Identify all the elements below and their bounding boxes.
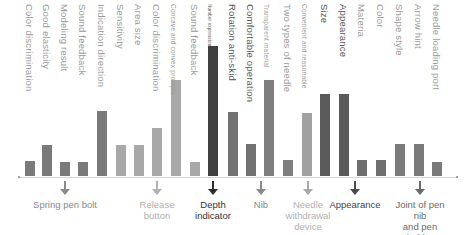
- down-arrow-icon: [256, 181, 266, 195]
- bar-label: Appearance: [338, 4, 348, 57]
- bar: [339, 94, 349, 176]
- bar-label: Needle loading port: [431, 4, 441, 90]
- group-callout-label: Nib: [254, 199, 268, 210]
- bar-label: Concave and convex prompts: [170, 4, 177, 95]
- bar: [414, 144, 424, 176]
- bar-label: Good elasticity: [41, 4, 51, 69]
- bar-label: Sound feedback: [77, 4, 87, 75]
- bar: [78, 162, 88, 176]
- bar: [60, 162, 70, 176]
- bar-label: Convenient and reasonable: [301, 4, 308, 89]
- group-callout-label: Appearance: [329, 199, 380, 210]
- bar: [42, 145, 52, 176]
- bar-label: Size: [319, 4, 329, 23]
- x-axis-baseline: [18, 177, 458, 178]
- bar-label: Two types of needle: [282, 4, 292, 92]
- bar: [357, 160, 367, 176]
- group-callout-label: Needle withdrawal device: [286, 199, 331, 232]
- down-arrow-icon: [152, 181, 162, 195]
- group-callout-label: Joint of pen nib and pen holder: [394, 199, 446, 235]
- bar: [376, 160, 386, 176]
- bar-label: Indication direction: [96, 4, 106, 87]
- feature-bar-chart: Color discriminationGood elasticityModel…: [0, 0, 472, 235]
- bar: [134, 145, 144, 176]
- down-arrow-icon: [350, 181, 360, 195]
- bar-label: Color discrimination: [151, 4, 161, 91]
- group-callout-label: Depth indicator: [195, 199, 231, 221]
- axis-start-dot: [18, 176, 20, 178]
- bar-label: Modeling result: [59, 4, 69, 71]
- bar: [302, 113, 312, 176]
- bar: [320, 94, 330, 176]
- group-callout-label: Spring pen bolt: [33, 199, 97, 210]
- bar: [190, 162, 200, 176]
- axis-end-dot: [456, 176, 458, 178]
- bar-label: Number expression: [207, 4, 212, 46]
- bar-label: Materia: [356, 4, 366, 37]
- bar: [264, 80, 274, 176]
- bar-label: Arrow hint: [413, 4, 423, 49]
- bar-label: Area size: [133, 4, 143, 45]
- bar: [116, 145, 126, 176]
- bar-label: Shape style: [394, 4, 404, 56]
- down-arrow-icon: [208, 181, 218, 195]
- bar-label: Rotation anti-skid: [227, 4, 237, 81]
- bar: [283, 160, 293, 176]
- bar-label: Color: [375, 4, 385, 28]
- down-arrow-icon: [60, 181, 70, 195]
- bar: [395, 144, 405, 176]
- bar: [25, 161, 35, 176]
- bar: [432, 162, 442, 176]
- bar: [228, 112, 238, 176]
- bar: [208, 46, 218, 176]
- down-arrow-icon: [303, 181, 313, 195]
- bar-label: Comfortable operation: [245, 4, 255, 102]
- group-callout-label: Release button: [140, 199, 175, 221]
- bar-label: Sensitivity: [115, 4, 125, 49]
- bar: [246, 144, 256, 176]
- bar: [152, 128, 162, 176]
- bar: [97, 111, 107, 176]
- bar-label: Sound feedback: [189, 4, 199, 75]
- bar-label: Transparent material: [263, 4, 270, 68]
- down-arrow-icon: [415, 181, 425, 195]
- bar-label: Color discrimination: [24, 4, 34, 91]
